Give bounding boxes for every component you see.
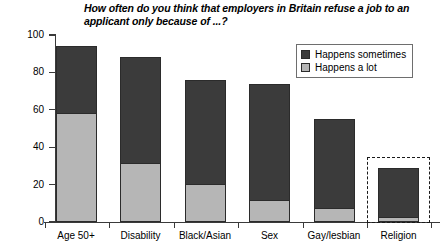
- y-axis-tick: [49, 221, 55, 222]
- x-axis-tick: [238, 222, 239, 228]
- bar-segment-happens-sometimes[interactable]: [57, 47, 96, 114]
- bar-segment-happens-sometimes[interactable]: [379, 169, 418, 219]
- bar-group[interactable]: [249, 35, 290, 222]
- legend-label-alot: Happens a lot: [315, 62, 377, 73]
- legend-item-happens-a-lot: Happens a lot: [301, 61, 406, 74]
- y-axis-tick: [49, 72, 55, 73]
- bar-segment-happens-sometimes[interactable]: [250, 85, 289, 203]
- stacked-bar[interactable]: [314, 119, 355, 222]
- bar-segment-happens-a-lot[interactable]: [315, 208, 354, 221]
- bar-group[interactable]: [120, 35, 161, 222]
- bar-group[interactable]: [185, 35, 226, 222]
- y-axis-tick-label: 20: [18, 180, 44, 190]
- bar-segment-happens-a-lot[interactable]: [186, 184, 225, 221]
- x-axis-label-religion: Religion: [354, 230, 443, 242]
- x-axis-tick: [367, 222, 368, 228]
- stacked-bar[interactable]: [185, 80, 226, 222]
- bar-segment-happens-a-lot[interactable]: [57, 113, 96, 221]
- y-axis-tick: [49, 34, 55, 35]
- x-axis-tick: [303, 222, 304, 228]
- y-axis-tick: [49, 109, 55, 110]
- legend-swatch-icon-sometimes: [301, 50, 310, 59]
- legend-item-happens-sometimes: Happens sometimes: [301, 48, 406, 61]
- y-axis-tick-label: 100: [18, 30, 44, 40]
- y-axis-tick-label: 0: [18, 217, 44, 227]
- chart-title: How often do you think that employers in…: [84, 2, 414, 28]
- bar-segment-happens-a-lot[interactable]: [379, 217, 418, 221]
- stacked-bar[interactable]: [378, 168, 419, 222]
- y-axis-tick-label: 80: [18, 67, 44, 77]
- bar-segment-happens-a-lot[interactable]: [250, 200, 289, 221]
- bar-group[interactable]: [56, 35, 97, 222]
- stacked-bar[interactable]: [249, 84, 290, 222]
- legend-label-sometimes: Happens sometimes: [315, 49, 406, 60]
- bar-segment-happens-a-lot[interactable]: [121, 163, 160, 221]
- bar-segment-happens-sometimes[interactable]: [121, 58, 160, 165]
- y-axis-tick: [49, 184, 55, 185]
- stacked-bar[interactable]: [56, 46, 97, 222]
- y-axis-tick: [49, 147, 55, 148]
- x-axis-tick: [109, 222, 110, 228]
- x-axis-tick: [431, 222, 432, 228]
- bar-segment-happens-sometimes[interactable]: [186, 81, 225, 186]
- x-axis-tick: [174, 222, 175, 228]
- bar-segment-happens-sometimes[interactable]: [315, 120, 354, 210]
- y-axis-tick-label: 40: [18, 142, 44, 152]
- chart-legend: Happens sometimes Happens a lot: [296, 44, 413, 78]
- x-axis-tick: [45, 222, 46, 228]
- stacked-bar[interactable]: [120, 57, 161, 222]
- legend-swatch-icon-alot: [301, 63, 310, 72]
- chart-container: How often do you think that employers in…: [0, 0, 443, 250]
- y-axis-tick-label: 60: [18, 105, 44, 115]
